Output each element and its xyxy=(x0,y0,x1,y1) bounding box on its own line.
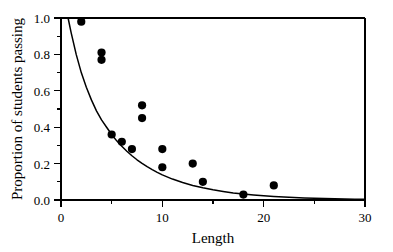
y-ticklabel-0.6: 0.6 xyxy=(34,84,51,99)
data-point xyxy=(158,145,166,153)
data-point xyxy=(138,101,146,109)
y-ticklabel-0.2: 0.2 xyxy=(34,157,50,172)
data-point xyxy=(158,163,166,171)
x-ticklabel-10: 10 xyxy=(156,210,169,225)
data-point xyxy=(77,18,85,26)
x-ticklabel-0: 0 xyxy=(58,210,65,225)
data-point xyxy=(108,130,116,138)
data-point xyxy=(199,178,207,186)
data-point xyxy=(97,48,105,56)
y-ticklabel-0.0: 0.0 xyxy=(34,193,50,208)
y-ticklabel-0.4: 0.4 xyxy=(34,120,51,135)
data-point xyxy=(270,181,278,189)
x-ticklabel-20: 20 xyxy=(257,210,270,225)
x-ticklabel-30: 30 xyxy=(359,210,372,225)
x-axis-title: Length xyxy=(192,230,235,246)
scatter-plot-svg: 1.0 0.8 0.6 0.4 0.2 0.0 0 10 20 30 xyxy=(0,0,393,252)
data-point xyxy=(118,138,126,146)
y-ticklabel-1.0: 1.0 xyxy=(34,11,50,26)
data-point xyxy=(128,145,136,153)
data-point xyxy=(239,190,247,198)
data-point xyxy=(138,114,146,122)
data-point xyxy=(189,160,197,168)
y-axis-title: Proportion of students passing xyxy=(9,17,25,200)
y-ticklabel-0.8: 0.8 xyxy=(34,47,50,62)
chart-figure: 1.0 0.8 0.6 0.4 0.2 0.0 0 10 20 30 xyxy=(0,0,393,252)
data-point xyxy=(97,56,105,64)
